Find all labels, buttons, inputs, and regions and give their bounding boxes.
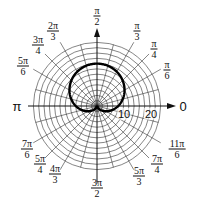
grid-spoke: [45, 106, 97, 158]
angle-label-pi-over-3: π3: [133, 21, 140, 42]
angle-label-5pi-over-4: 5π4: [34, 154, 46, 175]
angle-label-5pi-over-6: 5π6: [17, 56, 29, 77]
angle-label-5pi-over-3: 5π3: [133, 166, 145, 187]
angle-label-3pi-over-4: 3π4: [32, 35, 44, 56]
angle-label-pi-over-2: π2: [93, 6, 100, 27]
angle-label-pi-over-6: π6: [163, 60, 170, 81]
angle-label-4pi-over-3: 4π3: [49, 164, 61, 185]
angle-label-11pi-over-6: 11π6: [169, 139, 186, 160]
grid-spoke: [33, 69, 97, 106]
angle-label-zero: 0: [179, 99, 186, 114]
radial-tick-10: 10: [117, 108, 131, 120]
angle-label-3pi-over-2: 3π2: [91, 178, 103, 199]
arrow-right-icon: [167, 103, 176, 109]
angle-label-7pi-over-4: 7π4: [151, 154, 163, 175]
angle-label-7pi-over-6: 7π6: [21, 139, 33, 160]
grid-spoke: [60, 42, 97, 106]
grid-spoke: [97, 42, 134, 106]
grid-spoke: [97, 69, 161, 106]
angle-label-pi-over-4: π4: [150, 39, 157, 60]
angle-label-pi: π: [13, 99, 22, 114]
arrow-up-icon: [94, 28, 100, 37]
angle-label-2pi-over-3: 2π3: [47, 21, 59, 42]
radial-tick-20: 20: [144, 108, 158, 120]
grid-spoke: [60, 106, 97, 170]
